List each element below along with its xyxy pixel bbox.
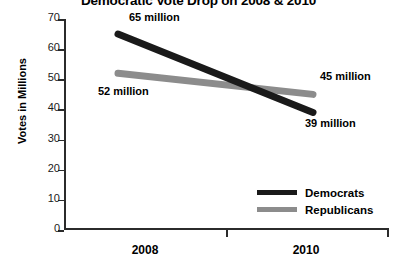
x-tick-end — [387, 230, 389, 237]
x-tick-divider — [226, 230, 228, 237]
y-tick-label: 50 — [48, 71, 60, 83]
annotation-rep-2008: 52 million — [98, 85, 149, 97]
annotation-dem-2010: 39 million — [305, 117, 356, 129]
y-tick-label: 0 — [54, 222, 60, 234]
y-tick-label: 60 — [48, 41, 60, 53]
y-axis-title: Votes in Millions — [16, 31, 28, 171]
annotation-rep-2010: 45 million — [320, 70, 371, 82]
legend-item-democrats: Democrats — [257, 184, 373, 201]
y-tick-label: 20 — [48, 162, 60, 174]
legend-label-democrats: Democrats — [305, 187, 364, 199]
y-tick-label: 30 — [48, 132, 60, 144]
x-axis-label-2010: 2010 — [293, 243, 320, 255]
chart-container: Democratic Vote Drop on 2008 & 2010 Vote… — [0, 0, 397, 255]
y-tick-label: 70 — [48, 11, 60, 23]
legend-label-republicans: Republicans — [305, 204, 373, 216]
y-tick-label: 10 — [48, 192, 60, 204]
x-axis-label-2008: 2008 — [132, 243, 159, 255]
annotation-dem-2008: 65 million — [129, 11, 180, 23]
legend-swatch-democrats — [257, 190, 297, 195]
chart-title: Democratic Vote Drop on 2008 & 2010 — [0, 0, 397, 8]
legend-item-republicans: Republicans — [257, 201, 373, 218]
y-tick-label: 40 — [48, 101, 60, 113]
chart-legend: Democrats Republicans — [257, 184, 373, 218]
legend-swatch-republicans — [257, 207, 297, 212]
